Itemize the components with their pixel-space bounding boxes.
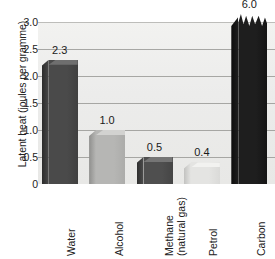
bar-front-face bbox=[191, 162, 220, 184]
bar-side-face bbox=[137, 157, 144, 184]
bar bbox=[89, 130, 125, 184]
bar bbox=[42, 60, 78, 184]
x-tick-label-line1: Petrol bbox=[207, 229, 219, 256]
bar-front-face bbox=[96, 130, 125, 184]
y-axis-tick-labels: 3.02.52.01.51.00.50 bbox=[14, 0, 38, 259]
bar-side-face bbox=[89, 130, 96, 184]
y-tick-label: 2.0 bbox=[23, 71, 38, 82]
x-tick-label-text: Water bbox=[66, 228, 78, 256]
bar-value-label: 6.0 bbox=[231, 0, 267, 10]
bar-chart: Latent heat (joules per gramme) 3.02.52.… bbox=[0, 0, 275, 259]
x-tick-label-line1: Carbon bbox=[255, 222, 267, 256]
bar-front-face bbox=[144, 157, 173, 184]
bar bbox=[137, 157, 173, 184]
x-tick-label-text: Carbon bbox=[256, 222, 268, 256]
bar-value-label: 1.0 bbox=[89, 115, 125, 126]
bar-side-face bbox=[42, 60, 49, 184]
x-tick-label-line1: Methane bbox=[163, 215, 175, 256]
x-tick-label-line1: Water bbox=[65, 228, 77, 256]
x-tick-label-text: Petrol bbox=[208, 229, 220, 256]
bar-side-face bbox=[184, 162, 191, 184]
bar-front-face bbox=[49, 60, 78, 184]
x-tick-label-text: Alcohol bbox=[114, 222, 126, 256]
bar-value-label: 0.4 bbox=[184, 147, 220, 158]
y-tick-label: 1.0 bbox=[23, 125, 38, 136]
bar-top-face bbox=[96, 130, 125, 135]
bar-side-face bbox=[231, 14, 238, 184]
bar-top-face bbox=[49, 60, 78, 65]
x-tick-label-line2: (natural gas) bbox=[176, 197, 188, 256]
bar-value-label: 0.5 bbox=[137, 142, 173, 153]
y-tick-label: 2.5 bbox=[23, 44, 38, 55]
bar-value-label: 2.3 bbox=[42, 45, 78, 56]
x-axis-category-labels: WaterAlcoholMethane(natural gas)PetrolCa… bbox=[38, 188, 275, 259]
bar-top-face bbox=[191, 162, 220, 167]
y-tick-label: 1.5 bbox=[23, 98, 38, 109]
bar bbox=[231, 14, 267, 184]
x-tick-label-text: Methane(natural gas) bbox=[164, 197, 187, 256]
bar-top-face bbox=[144, 157, 173, 162]
y-tick-label: 0.5 bbox=[23, 152, 38, 163]
bar bbox=[184, 162, 220, 184]
bar-front-face bbox=[238, 14, 267, 184]
y-tick-label: 3.0 bbox=[23, 17, 38, 28]
x-tick-label-line1: Alcohol bbox=[113, 222, 125, 256]
